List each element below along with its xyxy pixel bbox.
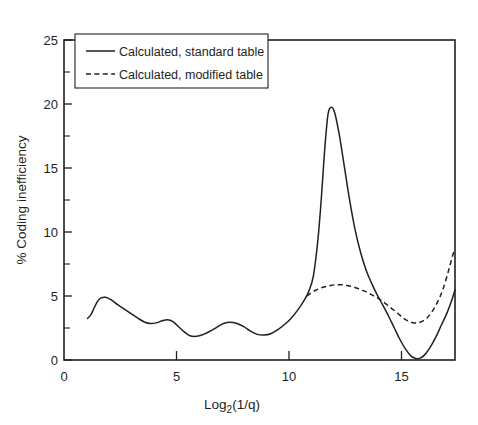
y-tick-label-5: 5 <box>51 289 58 304</box>
x-axis-title: Log2(1/q) <box>204 397 260 415</box>
legend-label-modified-table: Calculated, modified table <box>119 68 263 82</box>
x-axis-ticks <box>177 351 402 360</box>
y-tick-label-25: 25 <box>44 33 58 48</box>
y-tick-label-20: 20 <box>44 97 58 112</box>
y-tick-label-15: 15 <box>44 161 58 176</box>
y-tick-label-10: 10 <box>44 225 58 240</box>
x-tick-label-5: 5 <box>173 369 180 384</box>
x-tick-label-10: 10 <box>282 369 296 384</box>
x-axis-title-base: Log <box>204 397 227 412</box>
x-tick-label-0: 0 <box>60 369 67 384</box>
y-axis-minor-ticks <box>64 72 70 328</box>
x-tick-label-15: 15 <box>394 369 408 384</box>
series-line-modified-table <box>307 250 455 323</box>
chart-figure: 0 5 10 15 20 25 0 5 10 15 Log2(1/q) % Co… <box>0 0 478 425</box>
y-tick-label-0: 0 <box>51 353 58 368</box>
chart-canvas: 0 5 10 15 20 25 0 5 10 15 Log2(1/q) % Co… <box>0 0 478 425</box>
series-line-standard-table <box>88 107 455 358</box>
x-axis-title-tail: (1/q) <box>232 397 260 412</box>
legend-label-standard-table: Calculated, standard table <box>119 45 264 59</box>
chart-legend: Calculated, standard table Calculated, m… <box>75 34 268 88</box>
svg-text:Log2(1/q): Log2(1/q) <box>204 397 260 415</box>
y-axis-title: % Coding inefficiency <box>14 135 29 264</box>
